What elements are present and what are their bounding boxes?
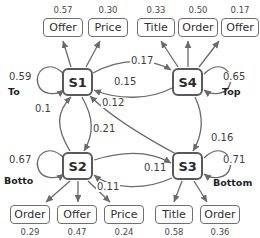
emission-value-bottom-1: 0.29	[10, 228, 50, 237]
self-loop-prob-s1: 0.59	[8, 72, 32, 82]
state-name-label-s4: Top	[222, 87, 241, 97]
emit-arrow-s4-title	[161, 41, 178, 67]
emission-value-top-1: 0.57	[43, 6, 83, 15]
state-name-label-s1: To	[8, 87, 20, 97]
self-loop-s1	[37, 67, 64, 94]
self-loop-prob-s3: 0.71	[222, 155, 246, 165]
emit-arrow-s1-price	[86, 41, 100, 67]
edges-layer	[0, 0, 260, 238]
emission-value-top-3: 0.33	[137, 6, 175, 15]
emit-arrow-s2-order	[46, 181, 70, 202]
edge-s4-s3	[193, 97, 201, 151]
emission-value-bottom-3: 0.24	[104, 228, 144, 237]
self-loop-prob-s2: 0.67	[8, 155, 32, 165]
state-node-s2[interactable]: S2	[62, 152, 93, 180]
emit-arrow-s3-order	[194, 181, 207, 202]
emission-box-order-s2[interactable]: Order	[10, 205, 50, 224]
emission-value-bottom-4: 0.58	[155, 228, 193, 237]
state-transition-diagram: 0.57 0.30 0.33 0.50 0.17 Offer Price Tit…	[0, 0, 260, 238]
edge-s4-s1	[94, 88, 172, 97]
emission-box-title-s4[interactable]: Title	[137, 18, 175, 37]
emission-box-offer-s1[interactable]: Offer	[43, 18, 83, 37]
self-loop-s2	[37, 151, 64, 178]
emission-box-offer-s2[interactable]: Offer	[57, 205, 97, 224]
emission-value-bottom-2: 0.47	[57, 228, 97, 237]
state-node-s4[interactable]: S4	[172, 68, 203, 96]
emission-value-top-4: 0.50	[178, 6, 218, 15]
self-loop-prob-s4: 0.65	[222, 72, 246, 82]
transition-prob-s1-s4: 0.17	[130, 56, 154, 66]
state-name-label-s3: Bottom	[213, 178, 252, 188]
emission-box-price-s1[interactable]: Price	[88, 18, 128, 37]
transition-prob-s4-s1: 0.15	[113, 77, 137, 87]
edge-s2-s1	[60, 97, 71, 151]
emission-value-bottom-5: 0.36	[200, 228, 240, 237]
emission-box-price-s2[interactable]: Price	[104, 205, 144, 224]
emission-box-offer-s4[interactable]: Offer	[221, 18, 259, 37]
state-name-label-s2: Botto	[4, 176, 33, 186]
transition-prob-s2-s1: 0.1	[34, 104, 52, 114]
transition-prob-s1-s2: 0.21	[92, 124, 116, 134]
emission-value-top-2: 0.30	[88, 6, 128, 15]
emit-arrow-s4-offer	[199, 41, 219, 67]
transition-prob-s3-s1: 0.12	[101, 98, 125, 108]
transition-prob-s4-s3: 0.16	[210, 133, 234, 143]
emit-arrow-s1-offer	[63, 41, 71, 67]
state-node-s1[interactable]: S1	[62, 68, 93, 96]
edge-s1-s2	[82, 97, 91, 151]
emission-value-top-5: 0.17	[221, 6, 259, 15]
transition-prob-s2-s3: 0.11	[143, 163, 167, 173]
emission-box-order-s4[interactable]: Order	[178, 18, 218, 37]
transition-prob-s3-s2: 0.11	[96, 182, 120, 192]
state-node-s3[interactable]: S3	[172, 152, 203, 180]
emit-arrow-s3-title	[174, 181, 182, 202]
emission-box-title-s3[interactable]: Title	[155, 205, 193, 224]
emission-box-order-s3[interactable]: Order	[200, 205, 240, 224]
